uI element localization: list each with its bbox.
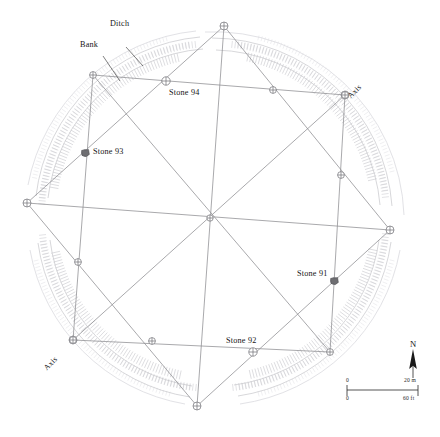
station-marker-edge-2: [270, 87, 277, 94]
station-marker-corner-5: [23, 199, 31, 207]
station-marker-edge-9: [70, 337, 77, 344]
scale-metric-min: 0: [346, 378, 349, 384]
scale-metric-max: 20 m: [404, 378, 416, 384]
stone-marker-stone-92: [249, 348, 257, 356]
plan-background: [0, 0, 440, 437]
annotation-label-ditch: Ditch: [110, 20, 129, 28]
north-label: N: [410, 340, 416, 349]
station-marker-centre: [207, 215, 213, 221]
stone-label-91: Stone 91: [297, 270, 327, 278]
station-marker-edge-10: [75, 259, 82, 266]
station-marker-edge-4: [338, 172, 345, 179]
station-marker-corner-3: [193, 402, 201, 410]
annotation-label-bank: Bank: [80, 41, 98, 49]
stone-label-93: Stone 93: [93, 148, 123, 156]
scale-imperial-max: 60 ft: [403, 396, 414, 402]
scale-imperial-min: 0: [346, 396, 349, 402]
stone-marker-stone-94: [162, 77, 170, 85]
station-marker-edge-0: [90, 72, 97, 79]
station-marker-edge-8: [149, 338, 156, 345]
stone-label-92: Stone 92: [226, 337, 256, 345]
station-marker-corner-0: [220, 22, 228, 30]
stone-label-94: Stone 94: [169, 89, 199, 97]
station-marker-edge-6: [327, 349, 334, 356]
site-plan-drawing: [0, 0, 440, 437]
station-marker-corner-2: [386, 226, 394, 234]
